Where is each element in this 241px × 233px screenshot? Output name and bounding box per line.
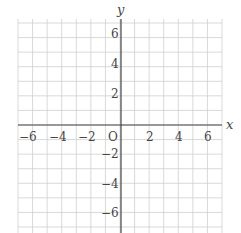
x-tick-label: 6 bbox=[204, 130, 212, 144]
grid-lines bbox=[18, 19, 222, 233]
x-tick-label: −2 bbox=[78, 130, 96, 144]
x-axis-label: x bbox=[226, 117, 234, 132]
x-tick-label: 4 bbox=[175, 130, 183, 144]
y-tick-label: −4 bbox=[101, 177, 119, 191]
y-tick-label: −2 bbox=[101, 147, 119, 161]
y-tick-label: 4 bbox=[111, 57, 119, 71]
y-tick-label: 2 bbox=[111, 87, 119, 101]
x-tick-label: −6 bbox=[19, 130, 37, 144]
y-tick-label: 6 bbox=[111, 27, 119, 41]
x-tick-label: −4 bbox=[49, 130, 67, 144]
y-axis-label: y bbox=[116, 2, 125, 17]
coordinate-grid: x y O −6 −4 −2 2 4 6 6 4 2 −2 −4 −6 bbox=[0, 0, 241, 233]
y-tick-label: −6 bbox=[101, 206, 119, 220]
origin-label: O bbox=[108, 130, 118, 144]
x-tick-label: 2 bbox=[146, 130, 154, 144]
